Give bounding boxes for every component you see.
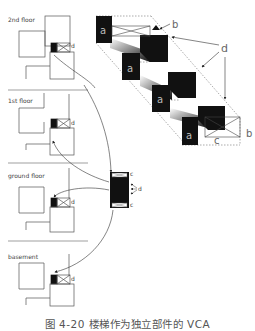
floor-2nd bbox=[19, 16, 74, 79]
marker-d: d bbox=[71, 198, 75, 205]
connection-arrows bbox=[53, 55, 113, 272]
module-label-c: c bbox=[130, 170, 133, 177]
label-d: d bbox=[221, 42, 228, 55]
module-label-d: d bbox=[138, 185, 142, 192]
marker-d: d bbox=[71, 119, 75, 126]
label-b-right: b bbox=[246, 128, 252, 139]
figure-caption: 图 4-20 楼梯作为独立部件的 VCA bbox=[0, 316, 255, 331]
label-2nd-floor: 2nd floor bbox=[8, 16, 35, 23]
block-label-a: a bbox=[100, 25, 106, 36]
block-label-a: a bbox=[186, 130, 192, 141]
label-ground-floor: ground floor bbox=[8, 172, 45, 180]
label-b-top: b bbox=[172, 19, 178, 30]
label-basement: basement bbox=[8, 253, 39, 260]
marker-d: d bbox=[71, 42, 75, 49]
stair-module bbox=[110, 172, 129, 208]
block-label-a: a bbox=[157, 94, 163, 105]
label-1st-floor: 1st floor bbox=[8, 97, 33, 104]
block-label-a: a bbox=[127, 63, 133, 74]
floor-basement bbox=[19, 254, 74, 306]
isometric-stair bbox=[96, 16, 240, 145]
label-c: c bbox=[214, 135, 220, 146]
marker-d: d bbox=[71, 275, 75, 282]
module-label-c: c bbox=[130, 201, 133, 208]
